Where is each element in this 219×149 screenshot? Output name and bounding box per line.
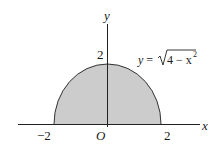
origin-label: O <box>96 128 106 143</box>
radicand: 4 − x <box>167 53 192 67</box>
x-tick-2: 2 <box>164 128 171 143</box>
curve-equation-label: y = 4 − x 2 <box>137 50 197 67</box>
x-tick-neg2: −2 <box>37 128 51 143</box>
x-axis-label: x <box>201 118 208 133</box>
semicircle-diagram: y x O 2 −2 2 y = 4 − x 2 <box>0 0 219 149</box>
y-tick-2: 2 <box>97 47 104 62</box>
svg-text:y =: y = <box>137 53 153 67</box>
exponent: 2 <box>193 50 197 59</box>
y-axis-label: y <box>102 8 110 23</box>
